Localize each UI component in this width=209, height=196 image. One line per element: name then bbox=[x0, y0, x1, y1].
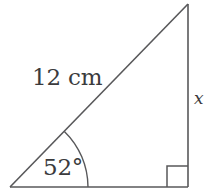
right-angle-marker bbox=[167, 166, 188, 187]
hypotenuse-line bbox=[10, 4, 188, 187]
triangle-diagram-svg bbox=[0, 0, 209, 196]
hypotenuse-label: 12 cm bbox=[32, 66, 102, 89]
opposite-side-label: x bbox=[194, 90, 204, 107]
triangle-figure: 12 cm 52° x bbox=[0, 0, 209, 196]
angle-label: 52° bbox=[43, 156, 83, 179]
